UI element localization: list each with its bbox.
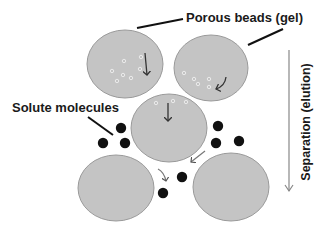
beads-leader-line-1: [137, 19, 183, 28]
porous-beads: [78, 30, 269, 221]
separation-arrow-icon: [285, 50, 293, 191]
porous-beads-label: Porous beads (gel): [186, 10, 303, 25]
bead-middle: [131, 94, 207, 162]
separation-elution-label: Separation (elution): [299, 63, 313, 180]
bead-top-left: [87, 30, 163, 98]
beads-leader-line-2: [248, 29, 283, 45]
bead-top-right: [174, 35, 248, 101]
bead-bottom-left: [78, 155, 154, 221]
solute-leader-line: [88, 117, 113, 135]
solute-molecules-label: Solute molecules: [12, 100, 119, 115]
bead-bottom-right: [193, 153, 269, 221]
